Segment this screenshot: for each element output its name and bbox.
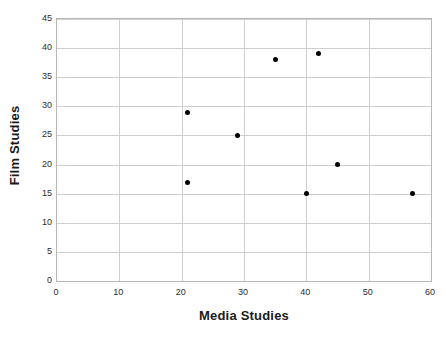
- gridline-vertical: [244, 19, 245, 281]
- gridline-vertical: [182, 19, 183, 281]
- x-tick-label: 30: [228, 287, 258, 297]
- y-tick-label: 35: [22, 71, 52, 81]
- x-tick-label: 0: [41, 287, 71, 297]
- y-tick-label: 10: [22, 217, 52, 227]
- y-tick-label: 45: [22, 13, 52, 23]
- y-axis-tick-labels: 051015202530354045: [18, 18, 52, 282]
- data-point: [273, 57, 278, 62]
- data-point: [185, 180, 190, 185]
- gridline-vertical: [369, 19, 370, 281]
- x-tick-label: 60: [415, 287, 445, 297]
- data-point: [235, 133, 240, 138]
- data-point: [304, 191, 309, 196]
- x-tick-label: 10: [103, 287, 133, 297]
- x-tick-label: 20: [166, 287, 196, 297]
- gridline-vertical: [119, 19, 120, 281]
- y-tick-label: 25: [22, 129, 52, 139]
- x-tick-label: 40: [290, 287, 320, 297]
- data-point: [410, 191, 415, 196]
- y-tick-label: 0: [22, 275, 52, 285]
- y-tick-label: 5: [22, 246, 52, 256]
- y-tick-label: 20: [22, 159, 52, 169]
- x-tick-label: 50: [353, 287, 383, 297]
- gridline-vertical: [306, 19, 307, 281]
- data-point: [335, 162, 340, 167]
- y-tick-label: 40: [22, 42, 52, 52]
- x-axis-title: Media Studies: [56, 308, 432, 323]
- data-point: [185, 110, 190, 115]
- y-tick-label: 30: [22, 100, 52, 110]
- scatter-chart: Film Studies 051015202530354045 01020304…: [0, 0, 448, 339]
- y-tick-label: 15: [22, 188, 52, 198]
- data-point: [316, 51, 321, 56]
- plot-area: [56, 18, 432, 282]
- x-axis-tick-labels: 0102030405060: [56, 287, 432, 301]
